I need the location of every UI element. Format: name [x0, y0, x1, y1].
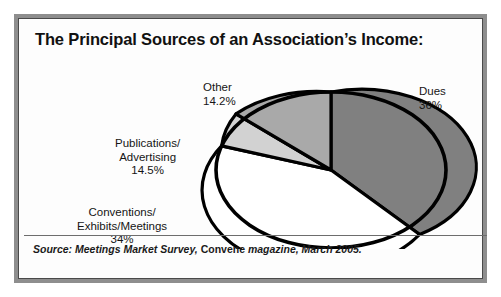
- pie-label-publications-line1: Publications/: [115, 137, 180, 151]
- pie-label-conventions-line1: Conventions/: [77, 206, 167, 220]
- source-divider: [24, 235, 487, 236]
- pie-chart: Other 14.2% Dues 36% Publications/ Adver…: [19, 49, 484, 249]
- pie-label-conventions: Conventions/ Exhibits/Meetings 34%: [77, 206, 167, 247]
- figure-frame: The Principal Sources of an Association’…: [14, 14, 487, 283]
- pie-label-conventions-line2: Exhibits/Meetings: [77, 220, 167, 234]
- source-note-publication: Convene: [201, 243, 245, 255]
- figure-frame-inner: The Principal Sources of an Association’…: [18, 18, 483, 279]
- pie-label-publications-value: 14.5%: [115, 164, 180, 178]
- pie-label-other-name: Other: [203, 81, 236, 95]
- source-note: Source: Meetings Market Survey, Convene …: [33, 243, 362, 255]
- pie-label-dues-value: 36%: [419, 99, 446, 113]
- source-note-suffix: magazine, March 2005.: [245, 243, 362, 255]
- pie-label-other-value: 14.2%: [203, 95, 236, 109]
- pie-label-dues: Dues 36%: [419, 85, 446, 112]
- source-note-prefix: Source: Meetings Market Survey,: [33, 243, 201, 255]
- pie-label-publications: Publications/ Advertising 14.5%: [115, 137, 180, 178]
- pie-label-publications-line2: Advertising: [115, 151, 180, 165]
- pie-label-other: Other 14.2%: [203, 81, 236, 108]
- pie-label-dues-name: Dues: [419, 85, 446, 99]
- page-title: The Principal Sources of an Association’…: [35, 30, 423, 49]
